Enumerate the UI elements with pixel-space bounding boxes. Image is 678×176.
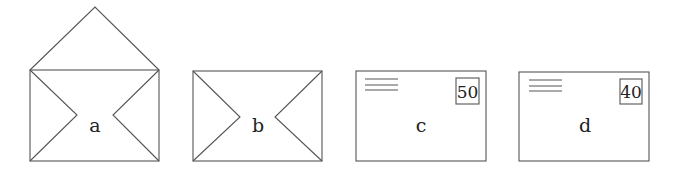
right-fold [113, 70, 159, 161]
label-b: b [252, 114, 264, 136]
envelope-a: a [30, 7, 159, 161]
stamp-value: 40 [620, 82, 642, 102]
left-fold [30, 70, 77, 161]
stamp-value: 50 [457, 82, 479, 102]
envelope-d: 40 d [519, 72, 649, 161]
right-fold [275, 71, 322, 161]
envelopes-diagram: a b 50 c 40 d [0, 0, 678, 176]
label-c: c [416, 114, 427, 136]
left-fold [193, 71, 240, 161]
label-d: d [579, 114, 591, 136]
label-a: a [89, 114, 100, 136]
envelope-b: b [193, 71, 322, 161]
envelope-c: 50 c [356, 71, 486, 161]
open-flap [30, 7, 159, 70]
